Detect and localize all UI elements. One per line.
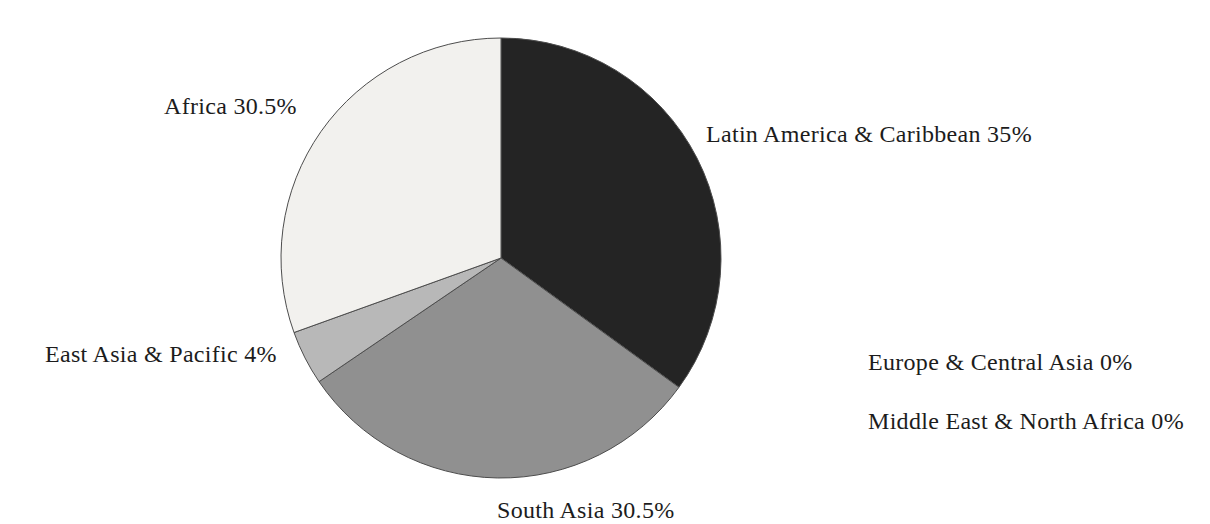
pie-label-latin-america-caribbean: Latin America & Caribbean 35% [706,120,1032,148]
pie-label-south-asia: South Asia 30.5% [497,496,674,524]
pie-label-africa: Africa 30.5% [164,92,297,120]
pie-chart-figure: Africa 30.5% Latin America & Caribbean 3… [0,0,1210,524]
pie-label-east-asia-pacific: East Asia & Pacific 4% [45,340,277,368]
pie-chart [0,0,1210,524]
pie-label-middle-east-north-africa: Middle East & North Africa 0% [868,407,1184,435]
pie-label-europe-central-asia: Europe & Central Asia 0% [868,348,1132,376]
